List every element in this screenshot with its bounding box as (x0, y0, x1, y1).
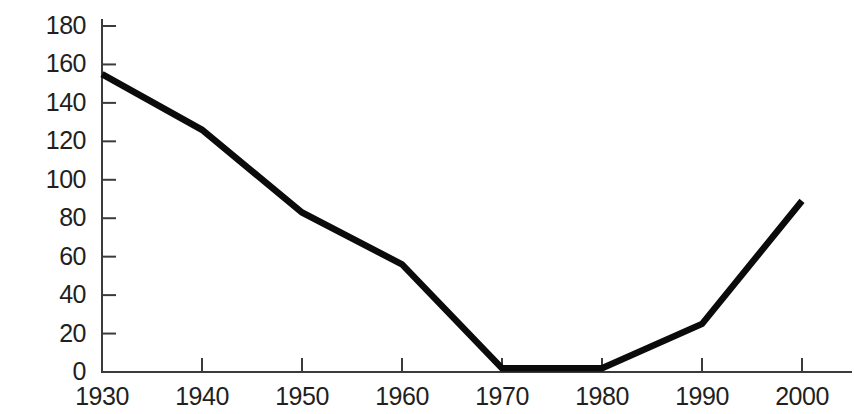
y-tick-label: 160 (16, 51, 86, 76)
x-tick-label: 1950 (257, 384, 347, 409)
x-tick-label: 2000 (757, 384, 847, 409)
data-series-line (102, 74, 802, 368)
y-tick-label: 80 (16, 205, 86, 230)
y-tick-label: 40 (16, 282, 86, 307)
y-tick-label: 180 (16, 13, 86, 38)
x-tick-label: 1930 (57, 384, 147, 409)
y-tick-label: 100 (16, 167, 86, 192)
x-tick-label: 1970 (457, 384, 547, 409)
x-tick-label: 1940 (157, 384, 247, 409)
x-axis-tick-marks (102, 358, 802, 372)
y-tick-label: 140 (16, 90, 86, 115)
y-tick-label: 60 (16, 244, 86, 269)
x-tick-label: 1960 (357, 384, 447, 409)
x-tick-label: 1980 (557, 384, 647, 409)
y-tick-label: 0 (16, 359, 86, 384)
chart-plot-area (0, 0, 854, 414)
y-tick-label: 20 (16, 321, 86, 346)
y-tick-label: 120 (16, 128, 86, 153)
x-tick-label: 1990 (657, 384, 747, 409)
line-chart: 020406080100120140160180 193019401950196… (0, 0, 854, 414)
